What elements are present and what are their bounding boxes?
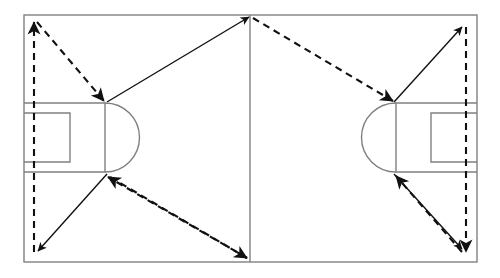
pitch-diagram-svg [0,0,500,278]
pitch-diagram-root [0,0,500,278]
